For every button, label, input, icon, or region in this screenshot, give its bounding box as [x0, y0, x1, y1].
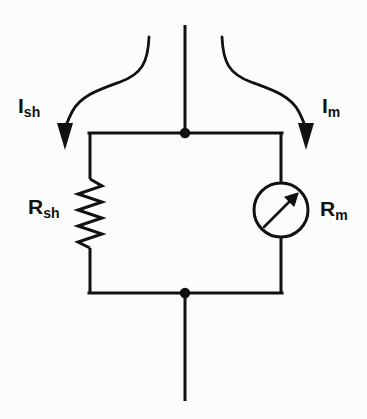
current-arrow-shunt-curve [65, 37, 149, 130]
label-resistor-shunt-subscript: sh [43, 205, 59, 221]
label-current-shunt-subscript: sh [24, 104, 40, 120]
circuit-diagram-figure: Ish Im Rsh Rm [0, 0, 367, 419]
meter-needle-shaft [264, 198, 293, 227]
label-current-meter-symbol: I [322, 94, 328, 117]
current-arrow-shunt-head-icon [57, 123, 73, 150]
label-resistor-meter-symbol: R [320, 197, 335, 220]
current-arrow-meter-curve [222, 37, 306, 130]
label-current-meter: Im [322, 95, 340, 116]
top-junction-dot [180, 128, 190, 138]
label-current-meter-subscript: m [328, 104, 340, 120]
label-current-shunt: Ish [18, 95, 40, 116]
label-resistor-meter-subscript: m [335, 207, 347, 223]
shunt-resistor-zigzag [78, 179, 102, 248]
label-resistor-meter: Rm [320, 198, 348, 219]
bottom-junction-dot [180, 288, 190, 298]
label-current-shunt-symbol: I [18, 94, 24, 117]
label-resistor-shunt-symbol: R [28, 195, 43, 218]
current-arrow-meter-head-icon [298, 123, 314, 150]
label-resistor-shunt: Rsh [28, 196, 60, 217]
